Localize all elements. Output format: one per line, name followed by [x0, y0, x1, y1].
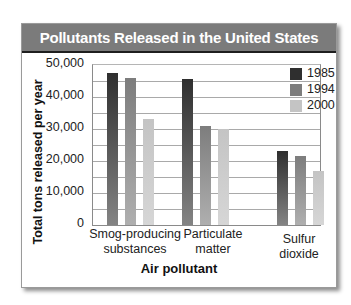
bar-1985 [182, 79, 193, 225]
y-tick-label: 40,000 [46, 88, 84, 102]
legend-label: 1985 [307, 66, 335, 80]
bar-1994 [200, 126, 211, 225]
legend-swatch [290, 84, 302, 96]
y-axis-label: Total tons released per year [31, 77, 47, 247]
bar-1994 [125, 78, 136, 225]
bar-1985 [107, 73, 118, 225]
legend-swatch [290, 100, 302, 112]
y-tick-label: 20,000 [46, 152, 84, 166]
bar-2000 [143, 119, 154, 225]
y-tick-label: 10,000 [46, 184, 84, 198]
bar-2000 [313, 171, 324, 225]
legend-label: 1994 [307, 82, 335, 96]
legend-label: 2000 [307, 98, 335, 112]
legend-swatch [290, 68, 302, 80]
x-category-label: Sulfurdioxide [249, 232, 349, 262]
bar-1994 [295, 156, 306, 225]
y-tick-label: 50,000 [46, 56, 84, 70]
y-tick-label: 30,000 [46, 120, 84, 134]
bar-2000 [218, 129, 229, 225]
chart-frame: Pollutants Released in the United States… [21, 23, 337, 288]
plot-area [92, 64, 321, 226]
y-tick-label: 0 [77, 216, 84, 230]
x-axis-label: Air pollutant [22, 261, 336, 276]
x-category-label: Particulatematter [163, 227, 263, 257]
bar-1985 [277, 151, 288, 225]
chart-title: Pollutants Released in the United States [22, 24, 336, 53]
